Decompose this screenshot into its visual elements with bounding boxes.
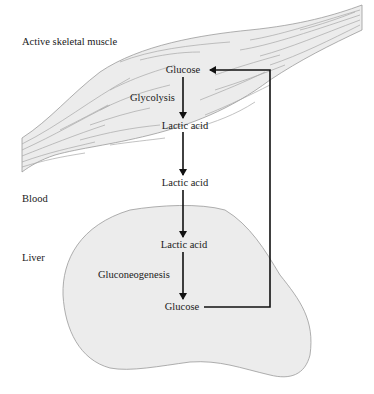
label-glycolysis: Glycolysis	[130, 92, 175, 104]
node-blood-lactic-acid: Lactic acid	[162, 177, 208, 189]
node-liver-glucose: Glucose	[165, 301, 199, 313]
muscle-shape	[22, 5, 362, 172]
label-blood: Blood	[22, 193, 48, 205]
cori-cycle-diagram: Active skeletal muscle Blood Liver Glyco…	[0, 0, 374, 394]
liver-shape	[63, 205, 311, 376]
label-active-skeletal-muscle: Active skeletal muscle	[22, 36, 117, 48]
node-liver-lactic-acid: Lactic acid	[161, 239, 207, 251]
diagram-graphics	[0, 0, 374, 394]
node-muscle-lactic-acid: Lactic acid	[162, 120, 208, 132]
label-liver: Liver	[22, 252, 45, 264]
node-muscle-glucose: Glucose	[166, 64, 200, 76]
label-gluconeogenesis: Gluconeogenesis	[98, 269, 170, 281]
